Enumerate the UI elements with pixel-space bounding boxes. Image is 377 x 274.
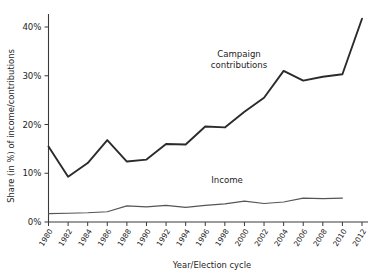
x-axis: 1980198219841986198819901992199419961998… <box>37 222 368 248</box>
line-chart: 0%10%20%30%40% 1980198219841986198819901… <box>0 0 377 274</box>
series-line-income <box>49 198 343 214</box>
x-tick-label: 2000 <box>233 227 251 248</box>
data-series-group <box>49 19 363 214</box>
campaign-annotation-line2: contributions <box>211 60 268 70</box>
campaign-contributions-annotation: Campaign contributions <box>211 49 268 70</box>
x-tick-label: 1986 <box>96 227 114 248</box>
x-axis-ticks: 1980198219841986198819901992199419961998… <box>37 222 368 248</box>
y-tick-label: 10% <box>22 168 41 178</box>
x-tick-label: 1992 <box>155 227 173 248</box>
y-tick-label: 20% <box>22 120 41 130</box>
x-axis-title: Year/Election cycle <box>172 260 251 270</box>
x-tick-label: 2004 <box>272 227 290 248</box>
x-tick-label: 1994 <box>174 227 192 248</box>
x-tick-label: 1998 <box>213 227 231 248</box>
x-tick-label: 1980 <box>37 227 55 248</box>
x-tick-label: 2012 <box>351 227 369 248</box>
x-tick-label: 2008 <box>311 227 329 248</box>
x-tick-label: 2002 <box>253 227 271 248</box>
x-tick-label: 1982 <box>57 227 75 248</box>
y-axis-ticks: 0%10%20%30%40% <box>22 22 48 227</box>
income-annotation: Income <box>211 175 243 185</box>
x-tick-label: 1988 <box>115 227 133 248</box>
x-tick-label: 1984 <box>76 227 94 248</box>
y-tick-label: 30% <box>22 71 41 81</box>
x-tick-label: 1996 <box>194 227 212 248</box>
x-tick-label: 1990 <box>135 227 153 248</box>
campaign-annotation-line1: Campaign <box>217 49 261 59</box>
y-tick-label: 0% <box>28 217 42 227</box>
y-axis: 0%10%20%30%40% <box>22 14 48 227</box>
series-line-campaign-contributions <box>49 19 363 177</box>
y-tick-label: 40% <box>22 22 41 32</box>
x-tick-label: 2006 <box>292 227 310 248</box>
income-annotation-line1: Income <box>211 175 243 185</box>
y-axis-title: Share (in %) of income/contributions <box>6 49 16 203</box>
chart-container: 0%10%20%30%40% 1980198219841986198819901… <box>0 0 377 274</box>
x-tick-label: 2010 <box>331 227 349 248</box>
